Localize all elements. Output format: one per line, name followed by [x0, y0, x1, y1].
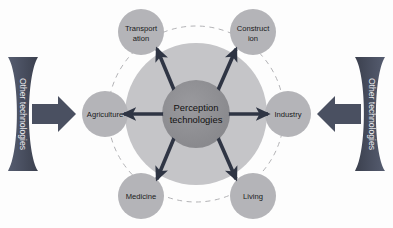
- hub-label-line2: technologies: [170, 114, 223, 125]
- node-label-line2: ation: [133, 34, 149, 43]
- node-label-line1: Industry: [274, 110, 301, 119]
- perception-technologies-diagram: Transport ation Construct ion Agricultur…: [0, 0, 393, 228]
- satellite-node-industry[interactable]: Industry: [265, 91, 311, 137]
- right-banner-arrow: [317, 96, 361, 132]
- node-label-line1: Agriculture: [87, 110, 123, 119]
- satellite-node-construction[interactable]: Construct ion: [230, 9, 276, 55]
- node-label-line1: Construct: [237, 24, 270, 33]
- node-label-line1: Living: [243, 192, 263, 201]
- node-label-line1: Medicine: [126, 192, 156, 201]
- satellite-node-living[interactable]: Living: [230, 173, 276, 219]
- node-label-line2: ion: [248, 34, 258, 43]
- node-label-line1: Transport: [125, 24, 158, 33]
- left-banner-arrow: [32, 96, 76, 132]
- diagram-canvas: Transport ation Construct ion Agricultur…: [0, 0, 393, 228]
- hub-label-group: Perception technologies: [163, 81, 229, 147]
- right-other-technologies-banner[interactable]: Other technologies: [317, 57, 385, 171]
- satellite-node-medicine[interactable]: Medicine: [118, 173, 164, 219]
- left-banner-label: Other technologies: [18, 78, 28, 150]
- left-other-technologies-banner[interactable]: Other technologies: [8, 57, 76, 171]
- hub-label-line1: Perception: [174, 102, 219, 113]
- satellite-node-transportation[interactable]: Transport ation: [118, 9, 164, 55]
- right-banner-label: Other technologies: [367, 78, 377, 150]
- satellite-node-agriculture[interactable]: Agriculture: [82, 91, 128, 137]
